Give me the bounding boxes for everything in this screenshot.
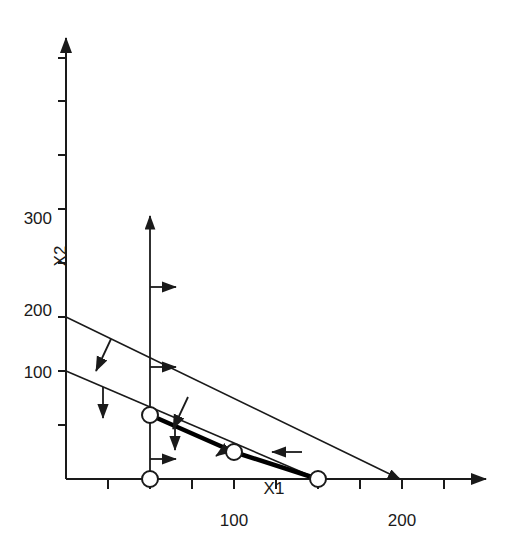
y-axis-label: X2: [51, 246, 70, 267]
y-tick-label-300: 300: [24, 209, 52, 228]
vertex-b: [142, 407, 158, 423]
x-tick-label-200: 200: [388, 511, 416, 530]
vertex-a: [142, 471, 158, 487]
y-axis-ticks: [58, 58, 66, 425]
x-tick-label-100: 100: [220, 511, 248, 530]
linear-programming-chart: 300 200 100 100 200 X2 X1: [0, 0, 522, 556]
y-tick-label-200: 200: [24, 301, 52, 320]
axes-group: [66, 38, 486, 479]
y-tick-label-100: 100: [24, 363, 52, 382]
x-tick-labels: 100 200: [220, 511, 416, 530]
x-axis-label: X1: [264, 479, 285, 498]
vertex-c: [226, 444, 242, 460]
vertex-d: [310, 471, 326, 487]
direction-arrows-group: [96, 287, 302, 459]
chart-canvas: 300 200 100 100 200 X2 X1: [0, 0, 522, 556]
arrow-line1-upper: [96, 339, 111, 371]
y-tick-labels: 300 200 100: [24, 209, 52, 382]
